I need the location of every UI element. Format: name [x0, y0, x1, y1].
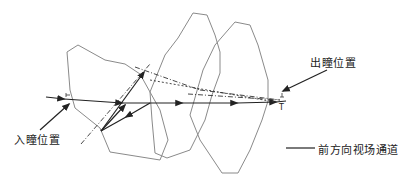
lens-element-3	[190, 22, 268, 173]
ghost-ray-return-tail	[101, 117, 126, 131]
entrance-pupil-label: 入瞳位置	[14, 131, 60, 147]
exit-marker-label: T	[279, 103, 284, 112]
exit-pupil-label: 出瞳位置	[310, 54, 356, 70]
dash-dot-line-upper	[135, 67, 200, 90]
exit-pupil-leader	[283, 70, 327, 91]
entrance-pupil-marker	[66, 93, 70, 97]
dash-dot-line-tilted	[81, 64, 150, 144]
exit-pupil-marker	[280, 93, 284, 97]
ghost-ray-return	[126, 103, 150, 117]
entrance-pupil-leader	[40, 104, 69, 130]
ghost-ray-mid	[101, 105, 125, 131]
axial-ray-4	[237, 102, 276, 103]
dotted-line	[150, 80, 275, 102]
lens-element-2	[150, 13, 220, 158]
legend-label: 前方向视场通道	[318, 141, 399, 157]
incoming-ray	[46, 97, 64, 99]
axial-ray-tail	[276, 101, 286, 102]
